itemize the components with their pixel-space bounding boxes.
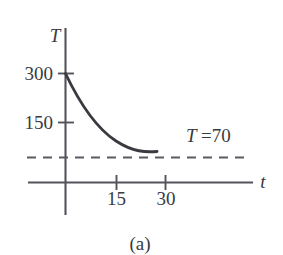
decay-curve-path (66, 74, 158, 152)
y-axis-label: T (50, 25, 62, 46)
asymptote-label-value: =70 (201, 125, 231, 146)
x-axis-label: t (260, 171, 266, 192)
x-tick-label-30: 30 (157, 188, 176, 209)
cooling-curve-plot: 300 150 15 30 T t T =70 (a) (0, 0, 283, 255)
y-tick-label-300: 300 (25, 63, 54, 84)
figure-container: 300 150 15 30 T t T =70 (a) (0, 0, 283, 255)
y-tick-label-150: 150 (25, 112, 54, 133)
figure-caption: (a) (129, 233, 150, 255)
asymptote-label-symbol: T (186, 125, 198, 146)
x-tick-label-15: 15 (107, 188, 126, 209)
